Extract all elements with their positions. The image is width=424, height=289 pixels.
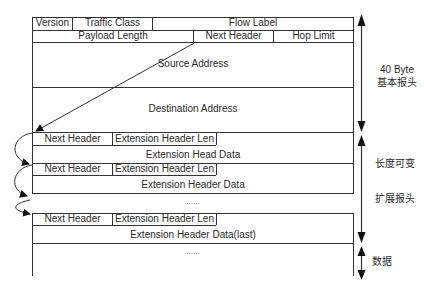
- field-next-header: Next Header: [194, 30, 273, 42]
- label-ext-desc: 扩展报头: [370, 193, 420, 205]
- next-header-pointer: [36, 42, 196, 131]
- ext1-header-len: Extension Header Len: [113, 133, 216, 145]
- field-flow-label: Flow Label: [153, 17, 353, 29]
- label-base-size: 40 Byte: [372, 64, 422, 76]
- ext1-next-header: Next Header: [33, 133, 112, 145]
- label-variable-length: 长度可变: [370, 158, 420, 170]
- field-payload-length: Payload Length: [33, 30, 193, 42]
- ext3-header-len: Extension Header Len: [113, 213, 216, 225]
- ext3-data: Extension Header Data(last): [33, 229, 353, 241]
- label-data: 数据: [370, 256, 394, 268]
- label-base-desc: 基本报头: [372, 77, 422, 89]
- ellipsis-payload: ......: [33, 246, 353, 258]
- ellipsis-between: ......: [33, 196, 353, 208]
- ext2-data: Extension Header Data: [33, 179, 353, 191]
- chain-arrow-2: [15, 165, 32, 196]
- field-source-address: Source Address: [33, 58, 353, 70]
- chain-arrow-3: [16, 200, 30, 214]
- field-destination-address: Destination Address: [33, 103, 353, 115]
- ext1-data: Extension Head Data: [33, 149, 353, 161]
- chain-arrow-1: [15, 133, 32, 164]
- ext2-next-header: Next Header: [33, 163, 112, 175]
- ext2-header-len: Extension Header Len: [113, 163, 216, 175]
- field-hop-limit: Hop Limit: [274, 30, 353, 42]
- field-traffic-class: Traffic Class: [73, 17, 152, 29]
- field-version: Version: [33, 17, 72, 29]
- ext3-next-header: Next Header: [33, 213, 112, 225]
